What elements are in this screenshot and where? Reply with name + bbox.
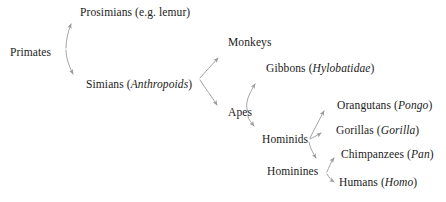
edge-primates-prosimians: [66, 24, 71, 48]
edge-simians-apes: [200, 80, 217, 105]
node-gorillas-open-paren: (: [374, 124, 381, 136]
edge-simians-monkeys: [200, 58, 218, 78]
node-gibbons: Gibbons (Hylobatidae): [266, 62, 374, 75]
edge-hominines-humans: [327, 174, 334, 182]
node-gibbons-label: Gibbons: [266, 62, 306, 74]
node-humans-open-paren: (: [378, 176, 385, 188]
node-monkeys: Monkeys: [228, 36, 272, 49]
node-hominines: Hominines: [267, 165, 318, 178]
node-gorillas-label: Gorillas: [336, 124, 374, 136]
node-apes: Apes: [228, 106, 252, 119]
node-gorillas-close-paren: ): [415, 124, 419, 136]
node-simians-label: Simians: [86, 78, 124, 90]
node-chimpanzees-scientific-name: Pan: [411, 148, 430, 160]
node-prosimians-close-paren: ): [186, 6, 190, 18]
node-monkeys-label: Monkeys: [228, 36, 272, 48]
node-orangutans-open-paren: (: [391, 99, 398, 111]
node-chimpanzees-close-paren: ): [430, 148, 434, 160]
node-gibbons-scientific-name: Hylobatidae: [313, 62, 371, 74]
node-gibbons-open-paren: (: [306, 62, 313, 74]
node-orangutans-scientific-name: Pongo: [398, 99, 429, 111]
node-primates: Primates: [10, 46, 51, 59]
node-gorillas: Gorillas (Gorilla): [336, 124, 419, 137]
node-gibbons-close-paren: ): [371, 62, 375, 74]
node-primates-label: Primates: [10, 46, 51, 58]
node-simians: Simians (Anthropoids): [86, 78, 192, 91]
node-apes-label: Apes: [228, 106, 252, 118]
node-hominids-label: Hominids: [262, 133, 308, 145]
edge-hominids-hominines: [309, 142, 316, 158]
node-humans-scientific-name: Homo: [385, 176, 414, 188]
node-humans-close-paren: ): [413, 176, 417, 188]
edge-hominids-orangutans: [310, 111, 324, 138]
node-humans: Humans (Homo): [339, 176, 417, 189]
node-gorillas-scientific-name: Gorilla: [381, 124, 416, 136]
node-simians-scientific-name: Anthropoids: [131, 78, 189, 90]
node-chimpanzees: Chimpanzees (Pan): [341, 148, 434, 161]
node-prosimians: Prosimians (e.g. lemur): [80, 6, 190, 19]
phylogenetic-tree-diagram: Primates Prosimians (e.g. lemur) Simians…: [0, 0, 446, 202]
edge-primates-simians: [66, 50, 73, 74]
node-orangutans-label: Orangutans: [337, 99, 391, 111]
node-orangutans: Orangutans (Pongo): [337, 99, 432, 112]
node-hominids: Hominids: [262, 133, 308, 146]
node-orangutans-close-paren: ): [428, 99, 432, 111]
edge-hominines-chimpanzees: [327, 158, 334, 172]
node-prosimians-scientific-name: e.g. lemur: [139, 6, 186, 18]
node-prosimians-label: Prosimians: [80, 6, 132, 18]
node-humans-label: Humans: [339, 176, 378, 188]
node-simians-open-paren: (: [124, 78, 131, 90]
node-hominines-label: Hominines: [267, 165, 318, 177]
node-prosimians-open-paren: (: [132, 6, 139, 18]
node-chimpanzees-open-paren: (: [404, 148, 411, 160]
node-simians-close-paren: ): [188, 78, 192, 90]
node-chimpanzees-label: Chimpanzees: [341, 148, 404, 160]
